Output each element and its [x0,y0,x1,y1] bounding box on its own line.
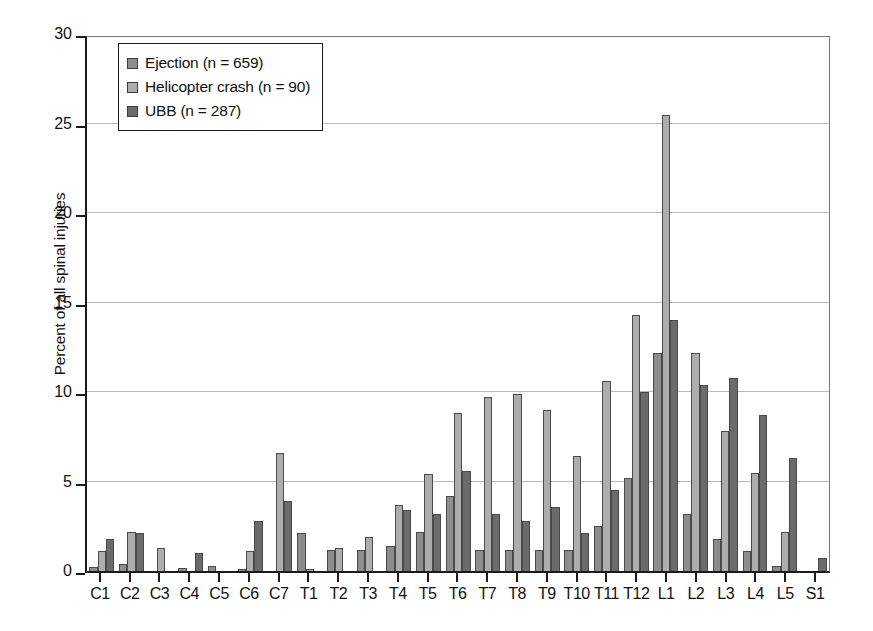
bar[interactable] [640,392,648,571]
bar[interactable] [276,453,284,571]
bar[interactable] [818,558,826,571]
x-axis-tick [443,573,473,583]
bar[interactable] [246,551,254,571]
bar[interactable] [772,566,780,571]
x-axis-tick-mark [814,573,816,582]
bar[interactable] [157,548,165,571]
bar[interactable] [700,385,708,571]
bar[interactable] [492,514,500,571]
bar[interactable] [178,568,186,571]
bar[interactable] [781,532,789,571]
bar[interactable] [254,521,262,571]
bar-group [443,37,473,571]
y-axis-tick-label: 0 [63,562,72,580]
bar[interactable] [403,510,411,571]
x-axis-tick-label: T1 [294,585,324,603]
y-axis-tick-mark [76,394,85,396]
bar[interactable] [713,539,721,571]
bar[interactable] [535,550,543,571]
bar[interactable] [543,410,551,571]
bar[interactable] [297,533,305,571]
bar-group [621,37,651,571]
bar[interactable] [484,397,492,571]
x-axis-tick-label: C7 [264,585,294,603]
bar[interactable] [395,505,403,571]
x-axis-tick [472,573,502,583]
x-axis-tick-mark [218,573,220,582]
bar[interactable] [759,415,767,571]
bar[interactable] [127,532,135,571]
bar[interactable] [424,474,432,571]
bar[interactable] [653,353,661,571]
bar[interactable] [357,550,365,571]
legend-swatch-icon [127,82,138,93]
bar[interactable] [416,532,424,571]
bar[interactable] [602,381,610,571]
bar[interactable] [238,569,246,571]
bar[interactable] [624,478,632,571]
bar[interactable] [670,320,678,571]
x-axis-tick [85,573,115,583]
bar[interactable] [513,394,521,571]
bar[interactable] [729,378,737,571]
bar[interactable] [505,550,513,571]
x-axis-tick-mark [248,573,250,582]
x-axis-tick-label: T2 [323,585,353,603]
bar[interactable] [573,456,581,571]
bar[interactable] [208,566,216,571]
bar[interactable] [564,550,572,571]
legend-label: Helicopter crash (n = 90) [145,78,310,96]
bar[interactable] [454,413,462,571]
bar-group [532,37,562,571]
bar[interactable] [594,526,602,571]
x-axis-tick [741,573,771,583]
bar[interactable] [632,315,640,571]
x-axis-tick [264,573,294,583]
bar[interactable] [119,564,127,571]
bar[interactable] [522,521,530,571]
bar[interactable] [335,548,343,571]
bar[interactable] [284,501,292,571]
x-axis-tick [711,573,741,583]
x-axis-tick [323,573,353,583]
y-axis-tick-label: 30 [54,25,72,43]
x-axis-tick [115,573,145,583]
x-axis-tick-label: T10 [562,585,592,603]
bar[interactable] [611,490,619,571]
x-axis-tick-mark [307,573,309,582]
bar[interactable] [683,514,691,571]
bar[interactable] [106,539,114,571]
bar-group [592,37,622,571]
x-axis-tick [353,573,383,583]
x-axis-tick [681,573,711,583]
bar[interactable] [327,550,335,571]
bar[interactable] [691,353,699,571]
bar[interactable] [306,569,314,571]
bar[interactable] [386,546,394,571]
bar[interactable] [462,471,470,571]
bar[interactable] [789,458,797,571]
x-axis-tick-mark [546,573,548,582]
bar[interactable] [551,507,559,571]
bar[interactable] [721,431,729,571]
bar[interactable] [98,551,106,571]
x-axis-tick [413,573,443,583]
bar[interactable] [743,551,751,571]
bar[interactable] [195,553,203,571]
bar[interactable] [475,550,483,571]
bar[interactable] [433,514,441,571]
bar[interactable] [89,567,97,571]
bar[interactable] [662,115,670,571]
bar-group [473,37,503,571]
x-axis-tick-mark [635,573,637,582]
x-axis-tick-mark [725,573,727,582]
bar[interactable] [581,533,589,571]
x-axis-tick [592,573,622,583]
bar[interactable] [446,496,454,571]
x-axis-tick [145,573,175,583]
bar[interactable] [136,533,144,571]
bar[interactable] [751,473,759,571]
bar-group [562,37,592,571]
bar[interactable] [365,537,373,571]
bar-group [414,37,444,571]
